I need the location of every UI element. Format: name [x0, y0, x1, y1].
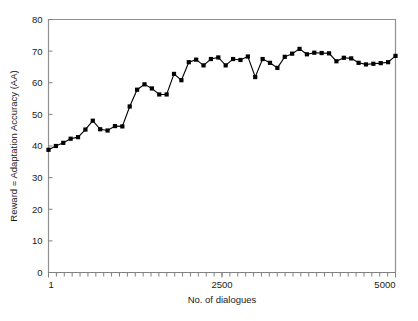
data-point-marker [69, 137, 73, 141]
data-point-marker [320, 51, 324, 55]
data-point-marker [246, 54, 250, 58]
data-point-marker [231, 57, 235, 61]
data-point-marker [327, 51, 331, 55]
data-point-marker [172, 72, 176, 76]
data-point-marker [342, 56, 346, 60]
data-point-marker [364, 62, 368, 66]
data-point-marker [356, 61, 360, 65]
data-point-marker [201, 63, 205, 67]
data-point-marker [216, 55, 220, 59]
data-point-marker [312, 51, 316, 55]
y-tick-label: 40 [32, 140, 43, 151]
y-tick-label: 10 [32, 235, 43, 246]
x-tick-label: 1 [49, 279, 54, 290]
data-point-marker [98, 127, 102, 131]
data-point-marker [261, 57, 265, 61]
series-polyline [49, 49, 396, 150]
data-point-marker [150, 86, 154, 90]
data-point-marker [157, 92, 161, 96]
data-point-marker [76, 135, 80, 139]
reward-vs-dialogues-chart: 01020304050607080 125005000 Reward = Ada… [0, 0, 418, 321]
y-axis-tick-labels: 01020304050607080 [32, 14, 43, 278]
data-point-marker [209, 57, 213, 61]
data-point-marker [91, 119, 95, 123]
data-point-marker [83, 127, 87, 131]
data-point-marker [334, 59, 338, 63]
data-point-marker [54, 144, 58, 148]
data-point-marker [393, 54, 397, 58]
data-point-marker [187, 60, 191, 64]
data-point-marker [224, 63, 228, 67]
data-point-marker [179, 78, 183, 82]
data-point-marker [268, 61, 272, 65]
data-point-marker [305, 52, 309, 56]
data-point-marker [283, 55, 287, 59]
y-tick-label: 50 [32, 109, 43, 120]
data-point-marker [349, 56, 353, 60]
data-point-marker [142, 82, 146, 86]
y-axis-title: Reward = Adaptation Accuracy (AA) [8, 70, 19, 221]
x-tick-label: 5000 [374, 279, 395, 290]
data-point-marker [46, 148, 50, 152]
data-point-marker [194, 58, 198, 62]
figure-container: 01020304050607080 125005000 Reward = Ada… [0, 0, 418, 321]
data-point-marker [128, 104, 132, 108]
y-tick-label: 0 [37, 267, 42, 278]
y-tick-label: 60 [32, 77, 43, 88]
data-point-marker [379, 61, 383, 65]
data-point-marker [61, 141, 65, 145]
data-point-marker [113, 124, 117, 128]
data-point-marker [120, 124, 124, 128]
data-series-reward [46, 47, 397, 152]
y-tick-label: 80 [32, 14, 43, 25]
x-axis-title: No. of dialogues [188, 294, 257, 305]
data-point-marker [290, 52, 294, 56]
data-point-marker [297, 47, 301, 51]
data-point-marker [238, 58, 242, 62]
data-point-marker [135, 88, 139, 92]
data-point-marker [253, 75, 257, 79]
data-point-marker [371, 62, 375, 66]
y-tick-label: 30 [32, 172, 43, 183]
x-axis-ticks [49, 273, 396, 278]
data-point-marker [386, 60, 390, 64]
data-point-marker [105, 128, 109, 132]
data-point-marker [275, 66, 279, 70]
x-tick-label: 2500 [211, 279, 232, 290]
y-tick-label: 70 [32, 46, 43, 57]
x-axis-tick-labels: 125005000 [49, 279, 396, 290]
data-point-marker [165, 92, 169, 96]
y-tick-label: 20 [32, 204, 43, 215]
